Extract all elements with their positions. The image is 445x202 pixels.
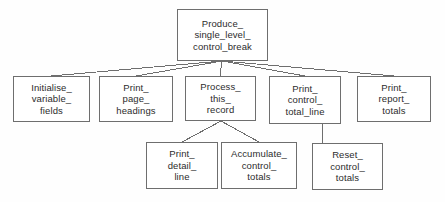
node-label-line: Print_ [292, 83, 317, 95]
node-label-line: single_level_ [194, 29, 250, 41]
node-print-detail-line[interactable]: Print_detail_line [146, 142, 218, 189]
node-accumulate-control-totals[interactable]: Accumulate_control_totals [221, 142, 297, 189]
node-label-line: page_ [123, 93, 150, 105]
connector-process-to-print-detail-line [182, 121, 221, 142]
connector-root-to-print-report-totals [222, 61, 394, 76]
node-label-line: control_ [330, 161, 365, 173]
node-label-line: line [174, 171, 189, 183]
connector-root-to-print-control-total-line [222, 61, 305, 76]
node-label-line: fields [40, 105, 63, 117]
node-label-line: Print_ [381, 82, 406, 94]
node-print-control-total-line[interactable]: Print_control_total_line [269, 76, 341, 124]
node-label-line: Print_ [169, 148, 194, 160]
node-label-line: Process_ [200, 81, 240, 93]
node-produce-single-level-control-break[interactable]: Produce_single_level_control_break [177, 9, 268, 61]
node-label-line: variable_ [32, 93, 71, 105]
connector-process-to-accumulate-control-totals [221, 121, 259, 142]
node-process-this-record[interactable]: Process_this_record [185, 76, 256, 121]
node-reset-control-totals[interactable]: Reset_control_totals [312, 143, 383, 190]
node-label-line: Reset_ [332, 149, 363, 161]
connector-root-to-process-this-record [220, 61, 222, 76]
node-label-line: control_break [193, 41, 252, 53]
connector-root-to-initialise [51, 61, 222, 76]
node-label-line: totals [336, 172, 359, 184]
node-initialise-variable-fields[interactable]: Initialise_variable_fields [13, 76, 90, 122]
node-label-line: Accumulate_ [231, 148, 287, 160]
node-label-line: totals [247, 171, 270, 183]
node-label-line: detail_ [168, 160, 197, 172]
node-label-line: headings [116, 105, 155, 117]
node-label-line: record [207, 104, 235, 116]
structure-chart-diagram: Produce_single_level_control_breakInitia… [0, 0, 445, 202]
node-label-line: Initialise_ [31, 82, 72, 94]
node-label-line: this_ [210, 93, 231, 105]
node-label-line: totals [382, 105, 405, 117]
node-print-page-headings[interactable]: Print_page_headings [99, 76, 173, 122]
node-label-line: Print_ [123, 82, 148, 94]
node-label-line: control_ [288, 94, 323, 106]
node-label-line: total_line [285, 106, 324, 118]
node-label-line: Produce_ [202, 18, 243, 30]
connector-root-to-print-page-headings [136, 61, 222, 76]
node-print-report-totals[interactable]: Print_report_totals [357, 76, 431, 122]
node-label-line: report_ [379, 93, 410, 105]
node-label-line: control_ [242, 160, 277, 172]
